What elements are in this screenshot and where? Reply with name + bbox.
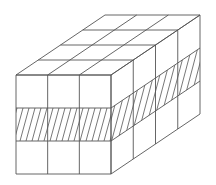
cube-prism-diagram <box>0 0 216 185</box>
hatch-line <box>214 29 216 82</box>
hatch-line <box>199 39 213 92</box>
hatch-line <box>206 34 216 87</box>
hatch-line <box>0 108 5 141</box>
prism-drawing <box>0 0 216 185</box>
prism-faces <box>16 15 200 174</box>
hatch-line <box>2 108 11 141</box>
